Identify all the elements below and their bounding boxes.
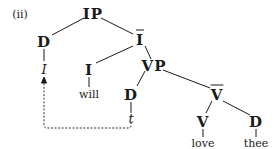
word-trace: t [128,112,133,125]
node-d-vp-spec: D [124,88,138,103]
node-v-bar: V [211,88,224,103]
movement-arrowhead-icon [42,77,47,83]
example-label: (ii) [12,9,28,20]
node-i-bar: I [136,33,144,48]
node-d-obj: D [249,115,263,130]
branch-ip-ibar [101,18,133,34]
node-i-head: I [85,63,93,78]
branch-vp-vbar [163,70,210,88]
word-thee: thee [244,138,269,149]
branch-ip-d [52,18,84,35]
word-will: will [79,89,99,100]
word-pronoun-I: I [41,63,46,76]
word-love: love [192,138,215,149]
node-ip: IP [83,7,103,22]
node-v-head: V [197,115,210,130]
node-d-spec: D [37,35,51,50]
branch-ibar-i [96,46,133,63]
node-vp: VP [142,59,167,74]
branch-vbar-d [223,101,250,115]
